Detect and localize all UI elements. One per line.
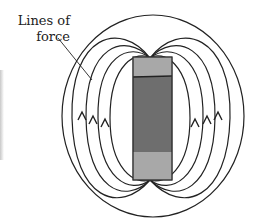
magnet-pole-top xyxy=(134,58,172,77)
label-leader-line xyxy=(58,38,92,80)
arrow-up-icon xyxy=(78,112,86,120)
arrow-up-icon xyxy=(203,116,211,124)
arrow-up-icon xyxy=(89,116,97,124)
magnet-pole-bottom xyxy=(134,152,172,180)
arrow-up-icon xyxy=(191,119,199,127)
arrow-up-icon xyxy=(101,119,109,127)
magnetic-field-diagram xyxy=(0,0,260,219)
bar-magnet xyxy=(133,57,172,180)
